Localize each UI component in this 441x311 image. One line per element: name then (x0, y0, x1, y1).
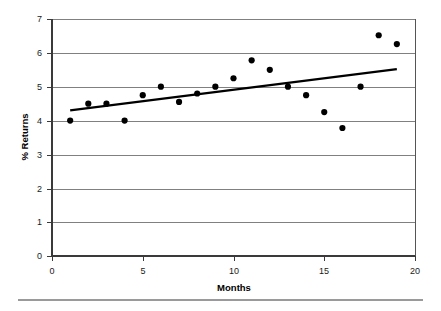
y-tick-label-7: 7 (37, 14, 42, 24)
x-tick-label-20: 20 (410, 266, 420, 276)
y-tick-label-4: 4 (37, 116, 42, 126)
data-point (249, 57, 255, 63)
data-point (194, 90, 200, 96)
data-point (230, 75, 236, 81)
y-tick-label-1: 1 (37, 217, 42, 227)
x-tick-label-0: 0 (49, 266, 54, 276)
y-tick-label-0: 0 (37, 251, 42, 261)
data-point (303, 92, 309, 98)
data-point (158, 84, 164, 90)
data-point (376, 32, 382, 38)
data-point (339, 125, 345, 131)
data-point (212, 84, 218, 90)
x-tick-label-10: 10 (229, 266, 239, 276)
y-tick-label-6: 6 (37, 48, 42, 58)
x-axis-title: Months (217, 282, 251, 293)
x-tick-label-5: 5 (140, 266, 145, 276)
data-point (285, 84, 291, 90)
y-axis-title: % Returns (19, 114, 30, 161)
y-tick-label-5: 5 (37, 82, 42, 92)
x-tick-label-15: 15 (319, 266, 329, 276)
scatter-plot-svg: 7 6 5 4 3 2 1 0 0 5 10 15 20 Months % Re… (0, 0, 441, 311)
data-point (67, 117, 73, 123)
data-point (103, 101, 109, 107)
y-tick-label-2: 2 (37, 184, 42, 194)
data-point (140, 92, 146, 98)
y-tick-label-3: 3 (37, 150, 42, 160)
data-point (394, 41, 400, 47)
data-point (85, 101, 91, 107)
data-point (176, 99, 182, 105)
data-point (267, 67, 273, 73)
data-point (357, 84, 363, 90)
data-point (122, 117, 128, 123)
data-point (321, 109, 327, 115)
chart-figure: 7 6 5 4 3 2 1 0 0 5 10 15 20 Months % Re… (0, 0, 441, 311)
